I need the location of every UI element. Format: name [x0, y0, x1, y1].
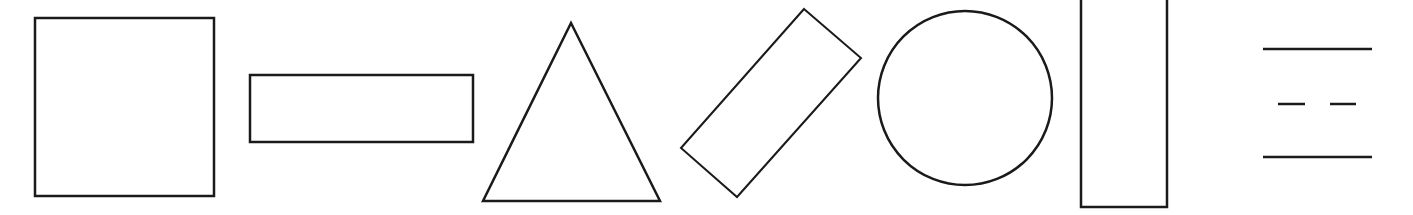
square-shape [35, 18, 214, 196]
shapes-canvas [0, 0, 1413, 215]
circle-shape [878, 11, 1052, 185]
rotated-rectangle-shape [681, 9, 861, 197]
vertical-rectangle-shape [1081, 0, 1167, 207]
triangle-shape [483, 23, 660, 201]
shapes-svg [0, 0, 1413, 215]
horizontal-rectangle-shape [250, 75, 473, 142]
